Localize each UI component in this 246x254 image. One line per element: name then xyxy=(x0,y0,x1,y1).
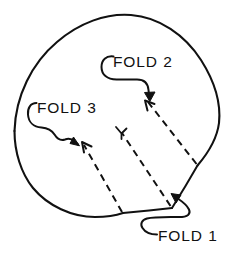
fold-3-crease-line xyxy=(84,145,122,212)
fold-2-crease-line xyxy=(148,102,197,164)
fold-3-label: FOLD 3 xyxy=(37,100,97,116)
center-crease-line xyxy=(122,133,171,206)
fold-1-label: FOLD 1 xyxy=(158,228,218,244)
fold-1-crease-left-line xyxy=(123,208,172,213)
fold-2-label: FOLD 2 xyxy=(113,54,173,70)
diagram-canvas: FOLD 1 FOLD 2 FOLD 3 xyxy=(0,0,246,254)
fold-1-callout-arrowhead-icon xyxy=(171,194,181,204)
center-crease-tick-icon xyxy=(116,127,127,139)
fold-3-crease-arrowhead-icon xyxy=(82,142,92,153)
fold-diagram-svg xyxy=(0,0,246,254)
shape-outline-path xyxy=(15,15,220,166)
shape-outline-bottom-path xyxy=(15,131,124,217)
